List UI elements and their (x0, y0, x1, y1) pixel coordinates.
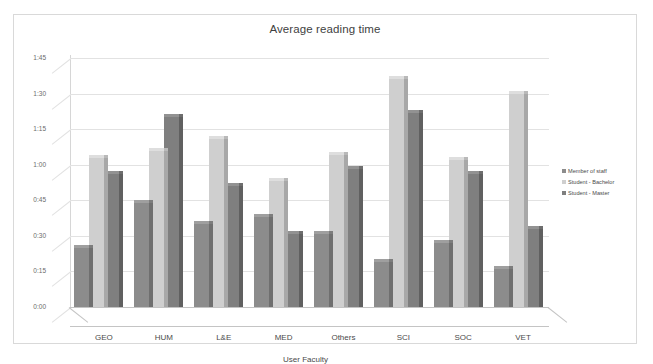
legend-swatch-icon (562, 191, 566, 195)
bar-side (344, 155, 348, 307)
bar-top (149, 148, 164, 151)
legend-label: Member of staff (568, 168, 607, 174)
legend-label: Student - Bachelor (568, 179, 614, 185)
bar-face (74, 248, 89, 307)
gridline-depth (52, 200, 72, 216)
bar-top (194, 221, 209, 224)
bar-side-top (269, 214, 273, 217)
bar-face (254, 217, 269, 307)
x-axis-tick-label: SOC (433, 333, 493, 342)
bar-top (164, 114, 179, 117)
bar-group (494, 55, 543, 307)
bar-face (314, 234, 329, 308)
bar-side (164, 151, 168, 308)
bar-side (539, 229, 543, 307)
x-axis-title: User Faculty (48, 355, 563, 364)
y-axis-tick-label: 1:45 (14, 54, 46, 61)
bar[interactable] (254, 217, 269, 307)
y-axis-tick-label: 0:15 (14, 267, 46, 274)
bar-side-top (419, 110, 423, 113)
legend-label: Student - Master (568, 190, 609, 196)
bar-side-top (509, 266, 513, 269)
bar[interactable] (74, 248, 89, 307)
bar[interactable] (434, 243, 449, 307)
bar-side-top (389, 259, 393, 262)
x-axis-tick-label: MED (254, 333, 314, 342)
bar-group (74, 55, 123, 307)
bar-side-top (164, 148, 168, 151)
y-axis-tick-label: 0:30 (14, 232, 46, 239)
gridline-depth (52, 165, 72, 181)
bar-side (119, 174, 123, 307)
bar-top (494, 266, 509, 269)
bar-top (509, 91, 524, 94)
y-axis-tick-label: 1:00 (14, 161, 46, 168)
bar-side-top (104, 155, 108, 158)
bar-side-top (179, 114, 183, 117)
bar-top (314, 231, 329, 234)
y-axis-tick-label: 0:00 (14, 303, 46, 310)
bar[interactable] (494, 269, 509, 307)
bar-side (104, 158, 108, 307)
bar-group (434, 55, 483, 307)
gridline-depth (52, 58, 72, 74)
x-axis-tick-label: HUM (134, 333, 194, 342)
bar-side (299, 234, 303, 308)
bar-face (194, 224, 209, 307)
bar-top (449, 157, 464, 160)
bar-side-top (449, 240, 453, 243)
bar-group (254, 55, 303, 307)
bar-side (404, 79, 408, 307)
bar-top (434, 240, 449, 243)
bar-side (149, 203, 153, 307)
bar-side-top (284, 178, 288, 181)
gridline-depth (52, 272, 72, 288)
bar-side (524, 94, 528, 307)
bar-face (434, 243, 449, 307)
y-axis-tick-label: 1:15 (14, 125, 46, 132)
x-axis-tick-label: VET (493, 333, 553, 342)
bar-top (269, 178, 284, 181)
bar-group (374, 55, 423, 307)
bar-group (314, 55, 363, 307)
bar-side (224, 139, 228, 307)
gridline-depth (52, 307, 72, 323)
bar-side (269, 217, 273, 307)
x-axis-tick-label: L&E (194, 333, 254, 342)
bar-side (389, 262, 393, 307)
y-axis-tick-label: 0:45 (14, 196, 46, 203)
bar[interactable] (134, 203, 149, 307)
bar-side (329, 234, 333, 308)
bar-side-top (149, 200, 153, 203)
legend-item[interactable]: Student - Master (562, 190, 622, 196)
bar-top (89, 155, 104, 158)
bar[interactable] (314, 234, 329, 308)
bar-side (449, 243, 453, 307)
legend-swatch-icon (562, 180, 566, 184)
gridline-depth (52, 236, 72, 252)
legend-item[interactable]: Student - Bachelor (562, 179, 622, 185)
bar-side (464, 160, 468, 307)
bar-side (284, 181, 288, 307)
bar-top (329, 152, 344, 155)
bar-side-top (479, 171, 483, 174)
bar-side-top (404, 76, 408, 79)
bar-side-top (329, 231, 333, 234)
bar-side-top (224, 136, 228, 139)
legend-item[interactable]: Member of staff (562, 168, 622, 174)
bar-side (509, 269, 513, 307)
bar[interactable] (374, 262, 389, 307)
floor-back-edge (70, 307, 549, 308)
gridline-depth (52, 94, 72, 110)
bar-side-top (344, 152, 348, 155)
bar-side (179, 117, 183, 307)
bar-top (374, 259, 389, 262)
bar-side-top (524, 91, 528, 94)
bar[interactable] (194, 224, 209, 307)
bar-side-top (89, 245, 93, 248)
chart-legend: Member of staffStudent - BachelorStudent… (562, 168, 622, 201)
y-axis-tick-label: 1:30 (14, 90, 46, 97)
bar-side (359, 169, 363, 307)
floor-left-edge (69, 307, 89, 323)
bar-top (254, 214, 269, 217)
